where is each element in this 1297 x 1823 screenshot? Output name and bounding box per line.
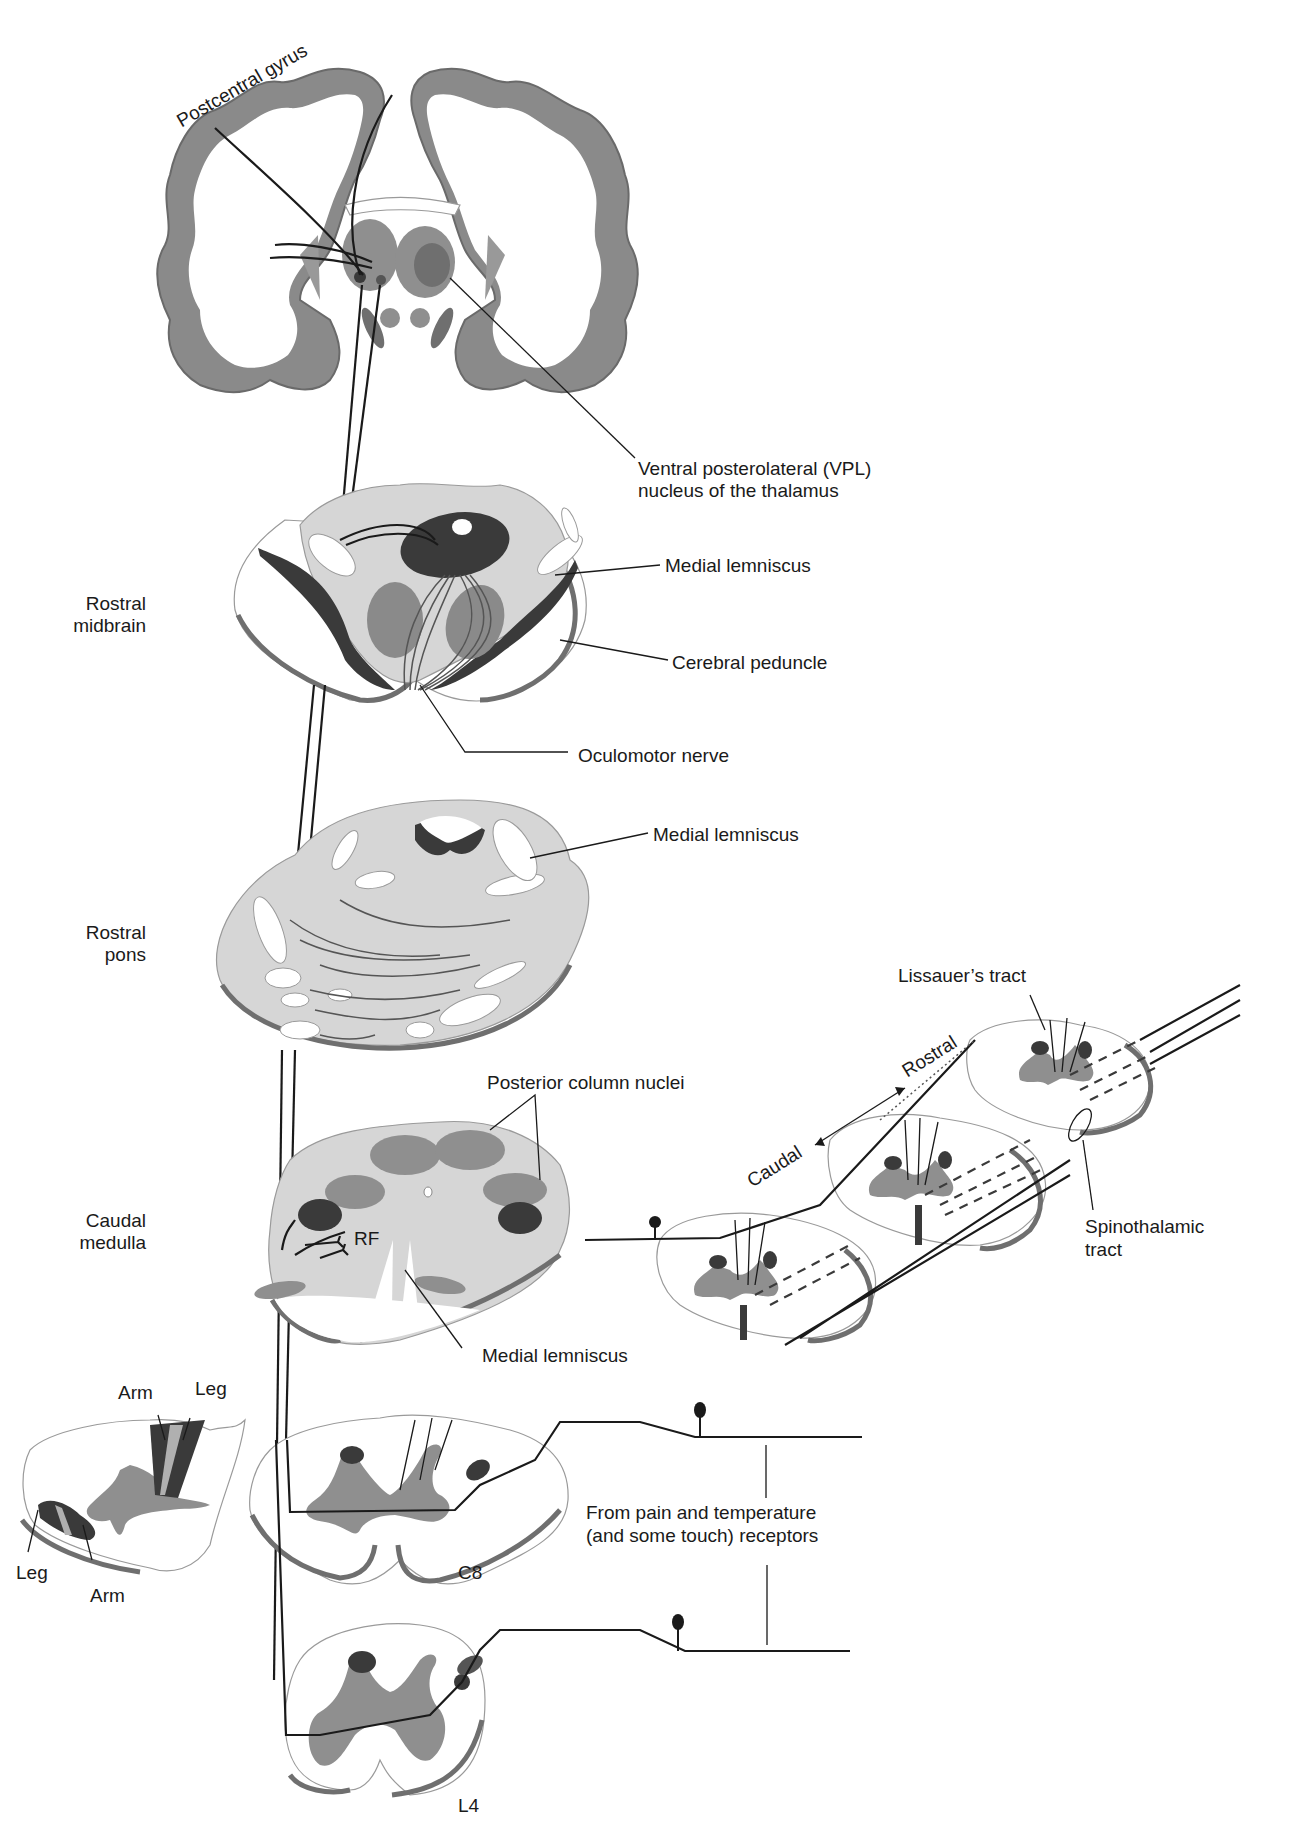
c8-drg-cell: [694, 1402, 706, 1418]
label-inset-leg-bottom: Leg: [16, 1562, 48, 1584]
level-label-midbrain-1: Rostral: [40, 593, 146, 615]
dorsal-root-ganglion-cell: [649, 1216, 661, 1228]
label-lissauers-tract: Lissauer’s tract: [898, 965, 1026, 987]
level-label-pons-1: Rostral: [40, 922, 146, 944]
coronal-brain-section: [157, 69, 637, 458]
rostral-midbrain-section: [234, 484, 668, 752]
label-spinothalamic-line2: tract: [1085, 1239, 1122, 1261]
level-label-medulla-2: medulla: [40, 1232, 146, 1254]
level-label-pons-2: pons: [40, 944, 146, 966]
level-label-medulla-1: Caudal: [40, 1210, 146, 1232]
label-medial-lemniscus-medulla: Medial lemniscus: [482, 1345, 628, 1367]
label-vpl-line1: Ventral posterolateral (VPL): [638, 458, 871, 480]
rostral-pons-section: [217, 800, 648, 1048]
spinal-cord-perspective-segments: [585, 985, 1240, 1345]
spinal-segment-middle: [828, 1114, 1045, 1248]
diagram-artwork: .ctx { fill: #8a8a8a; stroke: #6a6a6a; s…: [0, 0, 1297, 1823]
label-medial-lemniscus-pons: Medial lemniscus: [653, 824, 799, 846]
l4-drg-cell: [672, 1614, 684, 1630]
posterior-column-nucleus-right: [435, 1130, 505, 1170]
label-l4: L4: [458, 1795, 479, 1817]
c8-spinal-segment: [250, 1402, 862, 1584]
spinal-segment-rostral: [967, 985, 1240, 1133]
vpl-neuron-2: [376, 275, 386, 285]
label-cerebral-peduncle: Cerebral peduncle: [672, 652, 827, 674]
level-label-midbrain-2: midbrain: [40, 615, 146, 637]
label-spinothalamic-line1: Spinothalamic: [1085, 1216, 1204, 1238]
label-vpl-line2: nucleus of the thalamus: [638, 480, 839, 502]
label-receptors-line2: (and some touch) receptors: [586, 1525, 818, 1547]
posterior-column-nucleus-left: [370, 1135, 440, 1175]
somatotopy-inset: [22, 1415, 245, 1572]
label-inset-arm-top: Arm: [118, 1382, 153, 1404]
label-inset-arm-bottom: Arm: [90, 1585, 125, 1607]
label-c8: C8: [458, 1562, 482, 1584]
label-rf: RF: [354, 1228, 379, 1250]
label-posterior-column-nuclei: Posterior column nuclei: [487, 1072, 684, 1094]
spinothalamic-pathway-diagram: .ctx { fill: #8a8a8a; stroke: #6a6a6a; s…: [0, 0, 1297, 1823]
label-inset-leg-top: Leg: [195, 1378, 227, 1400]
label-medial-lemniscus-midbrain: Medial lemniscus: [665, 555, 811, 577]
label-receptors-line1: From pain and temperature: [586, 1502, 816, 1524]
label-oculomotor-nerve: Oculomotor nerve: [578, 745, 729, 767]
caudal-medulla-section: [253, 1095, 569, 1348]
